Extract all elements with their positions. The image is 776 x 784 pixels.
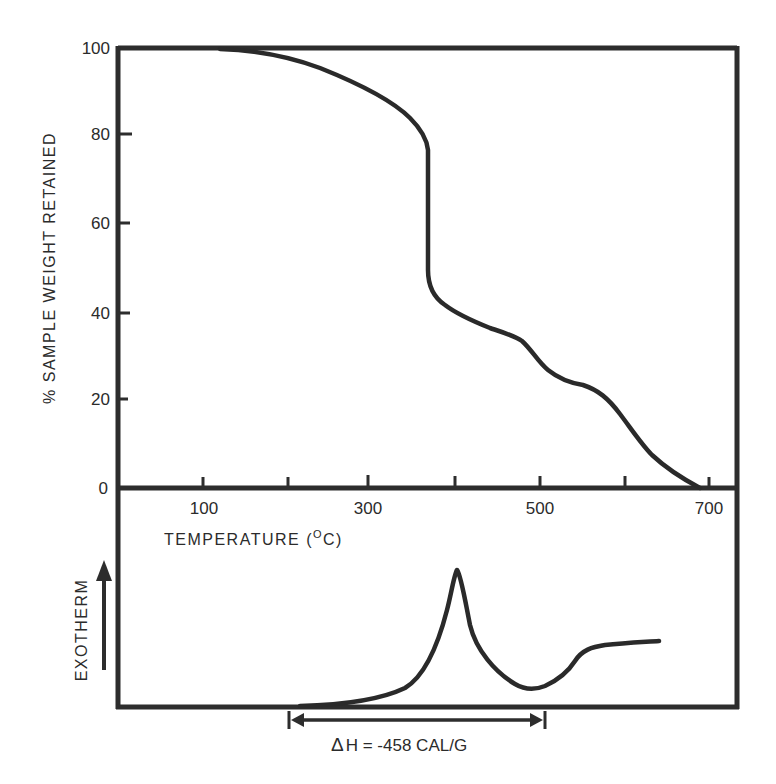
- x-tick-label-700: 700: [695, 499, 723, 518]
- x-tick-label-300: 300: [354, 499, 382, 518]
- y-tick-label-40: 40: [91, 304, 110, 323]
- dta-curve: [300, 570, 659, 706]
- tga-panel: 100 80 60 40 20 0 100 300 500 700 TEMPER…: [41, 39, 737, 709]
- y-tick-label-0: 0: [99, 479, 108, 498]
- exotherm-arrow-icon: [96, 560, 112, 670]
- x-tick-label-500: 500: [526, 499, 554, 518]
- tga-dta-figure: 100 80 60 40 20 0 100 300 500 700 TEMPER…: [0, 0, 776, 784]
- y-axis-title: % SAMPLE WEIGHT RETAINED: [41, 132, 58, 404]
- y-tick-label-100: 100: [82, 39, 110, 58]
- y-tick-label-80: 80: [91, 125, 110, 144]
- x-tick-label-100: 100: [190, 499, 218, 518]
- delta-h-range-arrow: [289, 711, 545, 729]
- y-tick-label-60: 60: [91, 214, 110, 233]
- dta-panel: EXOTHERM ΔH = -458 CAL/G: [73, 560, 739, 755]
- x-axis-title: TEMPERATURE (OC): [164, 528, 343, 548]
- arrow-right-icon: [530, 713, 543, 727]
- y-tick-label-20: 20: [91, 390, 110, 409]
- exotherm-label: EXOTHERM: [73, 579, 90, 682]
- arrow-left-icon: [291, 713, 304, 727]
- delta-h-annotation: ΔH = -458 CAL/G: [331, 734, 467, 755]
- tga-curve: [220, 49, 700, 488]
